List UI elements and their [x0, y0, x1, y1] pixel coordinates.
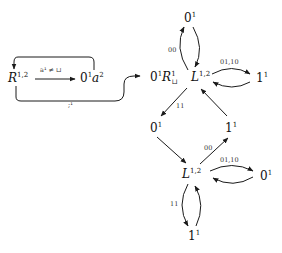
edge-lbot-to-zero-right [210, 166, 253, 172]
svg-text:11: 11 [225, 121, 237, 135]
edge-one-mid-to-ltop [201, 89, 227, 116]
node-0a2: 01a2 [80, 71, 104, 85]
svg-text:01: 01 [260, 169, 272, 183]
node-0R: 01R1⊔ [150, 70, 178, 86]
edge-label-lbot-right: 01,10 [220, 156, 239, 164]
edge-one-bot-to-lbot [195, 186, 201, 226]
edge-label-one-to-lbot: 00 [204, 144, 212, 152]
node-zero-right-bot: 01 [260, 169, 272, 183]
edge-ltop-to-zero-top [180, 27, 188, 70]
edge-lbot-to-one-bot [182, 184, 188, 226]
svg-text:01: 01 [150, 121, 162, 135]
node-l-top: L1,2 [190, 70, 210, 84]
node-one-right-top: 11 [256, 71, 268, 85]
state-diagram: R1,2 01a2 a¹ ≠ ⊔ ;¹ 01R1⊔ L1,2 01 00 11 … [0, 0, 282, 253]
svg-text:L1,2: L1,2 [190, 70, 210, 84]
node-zero-mid: 01 [150, 121, 162, 135]
svg-text:11: 11 [256, 71, 268, 85]
svg-text:01: 01 [184, 11, 196, 25]
edge-zero-right-to-lbot [213, 177, 253, 183]
node-one-mid: 11 [225, 121, 237, 135]
node-zero-top: 01 [184, 11, 196, 25]
edge-label-ltop-to-zero: 11 [176, 102, 184, 110]
node-l-bot: L1,2 [181, 167, 201, 181]
edge-one-to-ltop [213, 82, 250, 87]
edge-label-r-to-0a2: a¹ ≠ ⊔ [40, 66, 62, 74]
svg-text:01a2: 01a2 [80, 71, 104, 85]
edge-r-to-0R [16, 76, 140, 101]
svg-text:11: 11 [188, 229, 200, 243]
svg-text:01R1⊔: 01R1⊔ [150, 70, 178, 86]
edge-label-bottom: ;¹ [68, 101, 73, 109]
edge-label-loop-top: 00 [168, 46, 176, 54]
edge-label-lbot-to-one: 11 [170, 200, 178, 208]
edge-zero-mid-to-lbot [157, 137, 186, 163]
edge-ltop-to-one [212, 69, 250, 75]
node-r12: R1,2 [7, 71, 28, 85]
node-one-bot: 11 [188, 229, 200, 243]
svg-text:L1,2: L1,2 [181, 167, 201, 181]
svg-text:R1,2: R1,2 [7, 71, 28, 85]
edge-label-ltop-right: 01,10 [220, 58, 239, 66]
edge-zero-top-to-ltop [193, 27, 200, 67]
